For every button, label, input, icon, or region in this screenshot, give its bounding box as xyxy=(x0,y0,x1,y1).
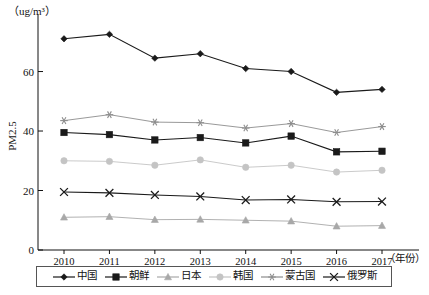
cross-marker xyxy=(322,271,346,283)
series-triangle xyxy=(61,213,386,229)
legend-label: 韩国 xyxy=(233,271,253,282)
diamond-marker xyxy=(379,86,385,92)
y-axis-tick-label: 20 xyxy=(23,185,35,197)
legend-label: 中国 xyxy=(77,271,97,282)
series-diamond xyxy=(61,31,385,95)
series-cross xyxy=(60,188,386,206)
y-axis-tick-label: 40 xyxy=(23,125,35,137)
chart-container: （ug/m³） PM2.5 （年份） 020406020102011201220… xyxy=(0,0,429,295)
square-marker xyxy=(333,149,339,155)
star-marker xyxy=(60,117,68,124)
circle-marker xyxy=(61,158,67,164)
diamond-marker xyxy=(61,36,67,42)
star-marker xyxy=(378,123,386,130)
legend-label: 朝鲜 xyxy=(129,271,149,282)
square-marker xyxy=(288,133,294,139)
diamond-marker xyxy=(288,68,294,74)
circle-marker xyxy=(243,164,249,170)
circle-marker xyxy=(197,157,203,163)
y-axis-tick-label: 60 xyxy=(23,66,35,78)
square-marker xyxy=(106,131,112,137)
diamond-marker xyxy=(333,89,339,95)
star-marker xyxy=(106,111,114,118)
diamond-marker xyxy=(106,31,112,37)
series-circle xyxy=(61,157,385,176)
y-axis-tick-label: 0 xyxy=(29,244,35,256)
star-marker xyxy=(268,273,276,280)
star-marker xyxy=(242,125,250,132)
star-marker xyxy=(287,120,295,127)
diamond-marker xyxy=(197,50,203,56)
star-marker xyxy=(196,119,204,126)
star-marker xyxy=(260,271,284,283)
star-marker xyxy=(333,129,341,136)
square-marker xyxy=(152,137,158,143)
legend-item-3[interactable]: 韩国 xyxy=(208,271,253,283)
star-marker xyxy=(151,119,159,126)
circle-marker xyxy=(208,271,232,283)
chart-legend: 中国朝鲜日本韩国蒙古国俄罗斯 xyxy=(36,266,392,287)
legend-label: 日本 xyxy=(181,271,201,282)
line-chart-plot: 020406020102011201220132014201520162017 xyxy=(0,0,429,295)
legend-item-2[interactable]: 日本 xyxy=(156,271,201,283)
legend-label: 蒙古国 xyxy=(285,271,315,282)
triangle-marker xyxy=(156,271,180,283)
diamond-marker xyxy=(243,65,249,71)
circle-marker xyxy=(152,162,158,168)
circle-marker xyxy=(288,162,294,168)
square-marker xyxy=(61,129,67,135)
circle-marker xyxy=(216,273,222,279)
square-marker xyxy=(197,134,203,140)
circle-marker xyxy=(333,169,339,175)
square-marker xyxy=(379,148,385,154)
legend-label: 俄罗斯 xyxy=(347,271,377,282)
diamond-marker xyxy=(52,271,76,283)
legend-item-0[interactable]: 中国 xyxy=(52,271,97,283)
square-marker xyxy=(112,273,118,279)
diamond-marker xyxy=(60,273,66,279)
circle-marker xyxy=(379,167,385,173)
legend-item-1[interactable]: 朝鲜 xyxy=(104,271,149,283)
legend-item-5[interactable]: 俄罗斯 xyxy=(322,271,377,283)
square-marker xyxy=(104,271,128,283)
square-marker xyxy=(243,140,249,146)
diamond-marker xyxy=(152,55,158,61)
legend-item-4[interactable]: 蒙古国 xyxy=(260,271,315,283)
circle-marker xyxy=(106,158,112,164)
